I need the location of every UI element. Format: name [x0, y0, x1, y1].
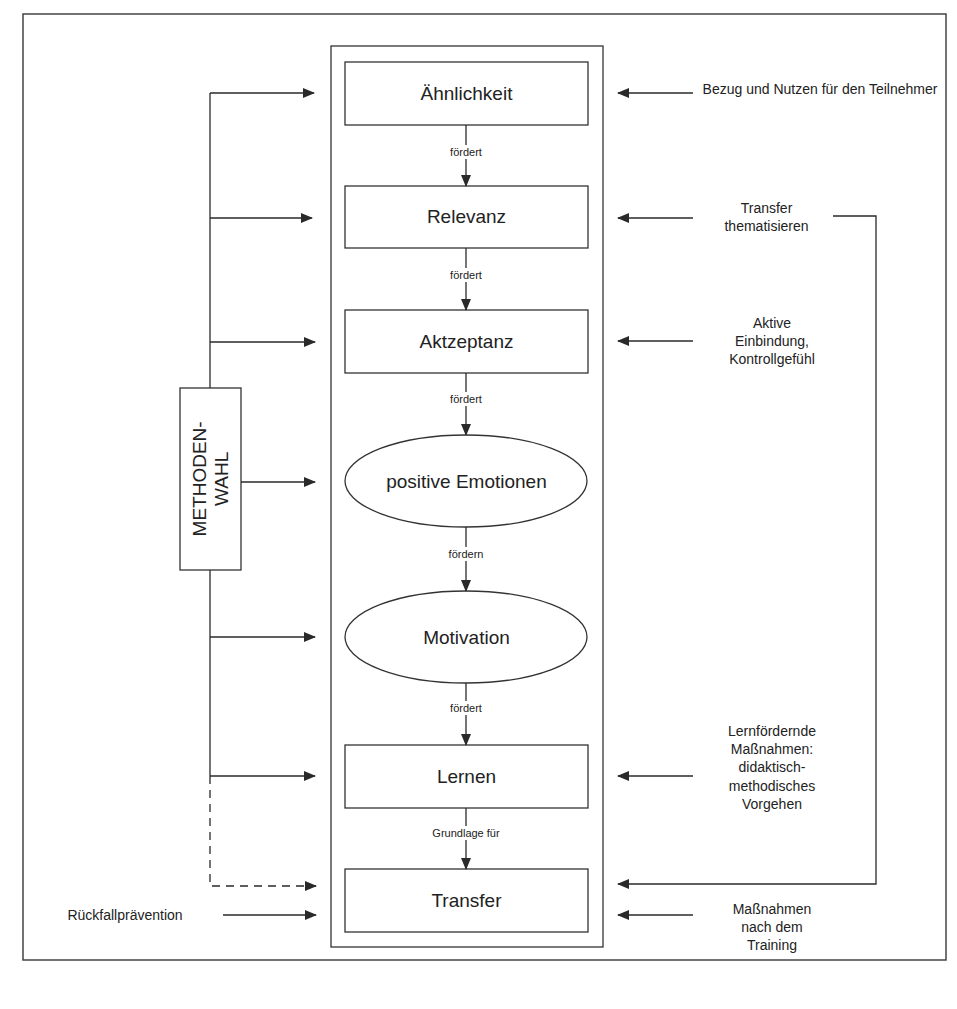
label-line: Maßnahmen: [712, 900, 832, 918]
methodenwahl-line2: WAHL: [211, 421, 233, 536]
methodenwahl-label: METHODEN- WAHL: [180, 388, 241, 570]
rueckfallpraevention-label: Rückfallprävention: [40, 906, 210, 924]
label-line: Transfer: [700, 199, 833, 217]
lernfoerdernde-massnahmen-label: Lernfördernde Maßnahmen: didaktisch- met…: [712, 722, 832, 813]
node-label-aehnlichkeit: Ähnlichkeit: [345, 62, 588, 125]
node-label-aktzeptanz: Aktzeptanz: [345, 310, 588, 373]
node-label-motivation: Motivation: [345, 591, 588, 684]
edge-label: Grundlage für: [430, 826, 501, 840]
label-line: didaktisch-: [712, 758, 832, 776]
label-line: nach dem: [712, 918, 832, 936]
label-line: methodisches: [712, 777, 832, 795]
node-label-positive-emotionen: positive Emotionen: [345, 435, 588, 528]
dashed-arrow-to-transfer: [210, 776, 316, 886]
label-line: Lernfördernde: [712, 722, 832, 740]
methodenwahl-line1: METHODEN-: [189, 421, 211, 536]
aktive-einbindung-label: Aktive Einbindung, Kontrollgefühl: [712, 314, 832, 369]
label-line: Einbindung,: [712, 332, 832, 350]
node-label-transfer: Transfer: [345, 869, 588, 932]
label-line: thematisieren: [700, 217, 833, 235]
node-label-relevanz: Relevanz: [345, 186, 588, 248]
node-label-lernen: Lernen: [345, 745, 588, 808]
edge-label: fördern: [447, 547, 486, 561]
label-line: Vorgehen: [712, 795, 832, 813]
label-line: Kontrollgefühl: [712, 350, 832, 368]
label-line: Maßnahmen:: [712, 740, 832, 758]
label-line: Training: [712, 936, 832, 954]
edge-label: fördert: [448, 145, 484, 159]
label-line: Aktive: [712, 314, 832, 332]
bezug-nutzen-label: Bezug und Nutzen für den Teilnehmer: [700, 80, 940, 98]
edge-label: fördert: [448, 392, 484, 406]
edge-label: fördert: [448, 701, 484, 715]
edge-label: fördert: [448, 268, 484, 282]
transfer-thematisieren-label: Transfer thematisieren: [700, 199, 833, 235]
massnahmen-nach-training-label: Maßnahmen nach dem Training: [712, 900, 832, 955]
